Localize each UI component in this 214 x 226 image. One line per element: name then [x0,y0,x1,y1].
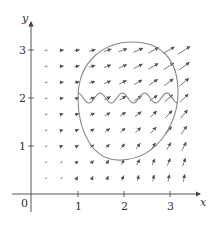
field-arrow [137,159,140,165]
field-arrow [89,81,95,83]
field-arrow [180,94,188,102]
field-arrow [60,82,64,83]
field-arrow [181,110,188,118]
x-tick-label-2: 2 [121,200,128,213]
field-arrow [75,114,79,115]
field-arrow [149,64,158,70]
field-arrow [104,81,111,84]
field-arrow [165,111,172,118]
field-arrow [119,49,128,52]
field-arrow [153,175,154,181]
field-arrow [119,65,127,68]
field-arrow [136,128,141,133]
field-arrow [60,162,62,163]
field-arrow [119,81,126,85]
field-arrow [121,144,125,149]
y-axis-label: y [21,12,29,25]
field-arrow [89,65,95,67]
field-arrow [152,159,155,165]
field-arrow [163,47,174,54]
field-arrow [60,50,64,51]
field-arrow [60,130,63,131]
field-arrow [165,95,173,102]
field-arrow [136,144,140,149]
field-arrow [106,144,110,148]
field-arrow [74,50,79,51]
vector-field-arrows [45,46,190,181]
field-arrow [183,175,184,182]
field-arrow [179,78,189,86]
field-arrow [91,161,94,164]
field-arrow [76,177,78,180]
y-tick-label-1: 1 [19,140,26,153]
field-arrow [120,128,125,132]
field-arrow [179,62,190,70]
field-arrow [182,142,186,150]
field-arrow [45,162,47,163]
field-arrow [151,127,156,133]
field-arrow [60,114,63,115]
origin-label: 0 [21,197,28,210]
field-arrow [135,112,141,117]
field-arrow [106,160,109,164]
field-arrow [91,176,93,180]
field-arrow [90,113,95,115]
field-arrow [168,175,169,182]
field-arrow [105,129,110,132]
x-tick-label-1: 1 [75,200,82,213]
field-arrow [150,111,157,117]
y-tick-label-3: 3 [19,44,26,57]
field-arrow [148,48,158,53]
field-arrow [134,80,142,85]
axes: 0 1 2 3 x 1 2 3 y [12,12,207,213]
y-tick-label-2: 2 [19,92,26,105]
field-arrow [89,50,95,52]
field-arrow [105,113,110,116]
x-tick-label-3: 3 [167,200,174,213]
field-arrow [134,64,143,68]
vector-field-figure: 0 1 2 3 x 1 2 3 y [0,0,214,226]
field-arrow [61,177,63,179]
field-arrow [76,161,79,163]
field-arrow [60,146,63,147]
field-arrow [75,129,79,131]
field-arrow [60,66,64,67]
field-arrow [149,79,158,85]
field-arrow [178,46,190,54]
x-axis-label: x [200,196,207,209]
field-arrow [90,129,94,131]
field-arrow [120,112,126,116]
field-arrow [181,126,187,134]
field-arrow [45,178,47,179]
field-arrow [137,175,138,181]
field-arrow [104,49,112,51]
field-arrow [74,66,79,67]
field-arrow [122,176,123,181]
field-arrow [107,176,109,180]
field-arrow [75,145,78,147]
field-arrow [60,98,63,99]
field-arrow [120,96,127,100]
field-arrow [104,65,111,68]
field-arrow [133,48,142,52]
field-arrow [167,159,170,166]
field-arrow [75,82,80,83]
field-arrow [167,143,171,150]
field-arrow [164,79,173,86]
closed-egg-curve [78,42,178,160]
field-arrow [183,158,186,166]
